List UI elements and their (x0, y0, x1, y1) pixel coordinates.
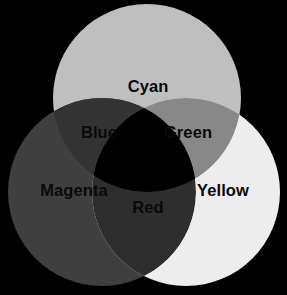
red-label: Red (132, 198, 163, 216)
yellow-label: Yellow (197, 181, 249, 199)
cmy-venn-diagram: Cyan Magenta Yellow Blue Green Red (0, 0, 287, 295)
green-label: Green (164, 123, 212, 141)
blue-label: Blue (81, 123, 117, 141)
venn-diagram-canvas: Cyan Magenta Yellow Blue Green Red (0, 0, 287, 295)
cyan-label: Cyan (128, 77, 169, 95)
magenta-label: Magenta (40, 181, 108, 199)
